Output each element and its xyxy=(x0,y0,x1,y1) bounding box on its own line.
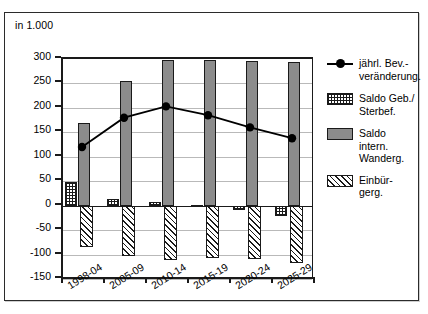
legend-label: Einbür-gerg. xyxy=(359,174,415,199)
chart-legend: jährl. Bev.-veränderung.Saldo Geb./Sterb… xyxy=(327,57,415,209)
x-axis-tick xyxy=(103,277,105,283)
legend-label-line1: Saldo intern. xyxy=(359,127,415,152)
legend-item: Saldo Geb./Sterbef. xyxy=(327,92,415,118)
x-axis-tick xyxy=(145,277,147,283)
legend-item: Einbür-gerg. xyxy=(327,174,415,200)
line-data-point xyxy=(120,114,128,122)
x-axis-tick xyxy=(61,277,63,283)
legend-swatch-cross-icon xyxy=(327,93,353,105)
x-axis-tick xyxy=(229,277,231,283)
y-axis-tick-label: 300 xyxy=(11,51,51,62)
legend-item: jährl. Bev.-veränderung. xyxy=(327,57,415,83)
y-axis-tick-label: 200 xyxy=(11,100,51,111)
y-axis-tick-label: 50 xyxy=(11,173,51,184)
line-series-overlay xyxy=(63,59,315,279)
legend-label-line2: gerg. xyxy=(359,186,415,199)
legend-label-line1: Einbür- xyxy=(359,174,415,187)
y-axis-tick-label: -150 xyxy=(11,271,51,282)
line-data-point xyxy=(204,111,212,119)
line-data-point xyxy=(288,134,296,142)
legend-label-line1: jährl. Bev.- xyxy=(359,57,415,70)
line-data-point xyxy=(78,143,86,151)
x-axis-tick xyxy=(187,277,189,283)
legend-label-line2: Sterbef. xyxy=(359,105,415,118)
legend-swatch-diag-icon xyxy=(327,175,353,187)
x-axis-tick xyxy=(271,277,273,283)
legend-swatch-gray-icon xyxy=(327,128,353,140)
x-axis-tick xyxy=(313,277,315,283)
y-axis-tick-label: 150 xyxy=(11,124,51,135)
chart-figure: in 1.000 300250200150100500-50-100-150 1… xyxy=(4,12,419,301)
legend-swatch-line-icon xyxy=(327,58,353,70)
y-axis-tick-label: -100 xyxy=(11,247,51,258)
legend-item: Saldo intern.Wanderg. xyxy=(327,127,415,165)
legend-label-line2: veränderung. xyxy=(359,70,415,83)
y-axis-tick-label: 0 xyxy=(11,198,51,209)
legend-label: Saldo intern.Wanderg. xyxy=(359,127,415,165)
y-axis-tick-label: -50 xyxy=(11,222,51,233)
legend-label-line1: Saldo Geb./ xyxy=(359,92,415,105)
unit-label: in 1.000 xyxy=(15,19,53,31)
y-axis-tick-label: 250 xyxy=(11,75,51,86)
y-axis-tick-label: 100 xyxy=(11,149,51,160)
line-data-point xyxy=(246,123,254,131)
legend-label: Saldo Geb./Sterbef. xyxy=(359,92,415,117)
plot-area xyxy=(61,57,313,277)
line-series-path xyxy=(82,106,292,147)
legend-label-line2: Wanderg. xyxy=(359,152,415,165)
line-data-point xyxy=(162,102,170,110)
legend-label: jährl. Bev.-veränderung. xyxy=(359,57,415,82)
